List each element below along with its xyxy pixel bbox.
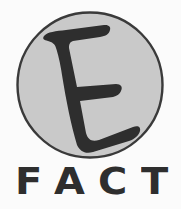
wordmark-letter-f: F [15, 160, 42, 202]
circle-e-emblem-icon [0, 0, 181, 165]
logo-canvas: F A C T [0, 0, 181, 209]
wordmark-letter-a: A [54, 160, 85, 202]
wordmark: F A C T [0, 160, 181, 200]
wordmark-letter-c: C [98, 160, 127, 202]
wordmark-letter-t: T [141, 160, 168, 202]
